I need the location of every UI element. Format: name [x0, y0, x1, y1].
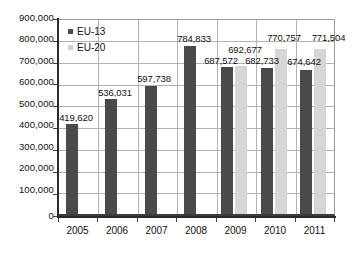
y-tick-label: 700,000: [2, 56, 54, 66]
bar-eu13-2011[interactable]: [300, 70, 312, 214]
x-tick-label-2005: 2005: [58, 225, 97, 236]
data-label-eu13-2009: 687,572: [198, 56, 244, 66]
bar-eu13-2006[interactable]: [105, 99, 117, 214]
bar-chart: 900,000 800,000 700,000 600,000 500,000 …: [0, 0, 355, 260]
data-label-eu20-2009: 692,677: [222, 45, 268, 55]
y-tick-label: 0: [2, 211, 54, 221]
y-axis-labels: 900,000 800,000 700,000 600,000 500,000 …: [0, 0, 54, 260]
legend-label-eu13: EU-13: [77, 26, 105, 37]
x-tick-mark: [137, 218, 138, 222]
x-tick-mark: [255, 218, 256, 222]
x-tick-label-2009: 2009: [216, 225, 255, 236]
bar-eu20-2009[interactable]: [235, 66, 247, 214]
x-tick-mark: [334, 218, 335, 222]
x-tick-label-2007: 2007: [137, 225, 176, 236]
data-label-eu13-2007: 597,738: [131, 74, 177, 84]
data-label-eu13-2010: 682,733: [239, 56, 285, 66]
data-label-eu20-2010: 770,757: [261, 33, 307, 43]
legend: EU-13 EU-20: [68, 24, 105, 56]
x-tick-mark: [295, 218, 296, 222]
y-tick-label: 300,000: [2, 142, 54, 152]
legend-item-eu20[interactable]: EU-20: [68, 40, 105, 54]
data-label-eu13-2006: 536,031: [92, 88, 138, 98]
legend-swatch-icon: [68, 29, 73, 34]
x-tick-label-2006: 2006: [97, 225, 137, 236]
y-tick-label: 900,000: [2, 13, 54, 23]
y-tick-label: 600,000: [2, 77, 54, 87]
y-tick-label: 200,000: [2, 163, 54, 173]
y-axis-spine: [57, 18, 59, 217]
x-tick-mark: [58, 218, 59, 222]
data-label-eu13-2011: 674,642: [281, 57, 327, 67]
data-label-eu20-2011: 771,504: [305, 33, 352, 43]
x-tick-mark: [216, 218, 217, 222]
y-tick-label: 800,000: [2, 34, 54, 44]
legend-label-eu20: EU-20: [77, 42, 105, 53]
legend-swatch-icon: [68, 45, 73, 50]
x-tick-label-2010: 2010: [255, 225, 295, 236]
y-tick-label: 500,000: [2, 99, 54, 109]
x-tick-mark: [176, 218, 177, 222]
bar-eu20-2010[interactable]: [275, 49, 287, 214]
bar-eu13-2008[interactable]: [184, 46, 196, 214]
data-label-eu13-2008: 784,833: [171, 34, 217, 44]
bar-eu13-2007[interactable]: [145, 86, 157, 214]
bar-eu13-2009[interactable]: [221, 67, 233, 214]
y-tick-label: 400,000: [2, 120, 54, 130]
bar-eu20-2011[interactable]: [314, 49, 326, 214]
legend-item-eu13[interactable]: EU-13: [68, 24, 105, 38]
bar-eu13-2010[interactable]: [261, 68, 273, 214]
x-tick-mark: [97, 218, 98, 222]
y-tick-label: 100,000: [2, 185, 54, 195]
data-label-eu13-2005: 419,620: [54, 113, 98, 123]
x-tick-label-2008: 2008: [176, 225, 216, 236]
x-tick-label-2011: 2011: [295, 225, 334, 236]
bar-eu13-2005[interactable]: [66, 124, 78, 214]
